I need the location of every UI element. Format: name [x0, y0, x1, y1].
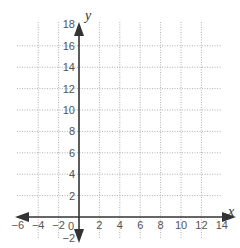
x-tick-label: 12 — [195, 219, 207, 231]
y-tick-label: 8 — [69, 125, 75, 137]
x-axis-label: x — [227, 204, 235, 219]
y-tick-label: 14 — [63, 61, 75, 73]
x-tick-label: 8 — [158, 219, 164, 231]
y-tick-label: 4 — [69, 168, 75, 180]
x-tick-label: 14 — [216, 219, 228, 231]
x-tick-label: 10 — [175, 219, 187, 231]
axes — [15, 22, 236, 243]
y-tick-label: −2 — [62, 232, 75, 244]
y-tick-label: 2 — [69, 190, 75, 202]
y-tick-label: 6 — [69, 147, 75, 159]
y-tick-label: 10 — [63, 104, 75, 116]
grid-lines — [17, 22, 221, 238]
y-tick-label: 18 — [63, 18, 75, 30]
x-tick-label: −6 — [12, 219, 25, 231]
x-tick-label: 2 — [96, 219, 102, 231]
coordinate-plane: −6−4−22468101214−224681012141618 x y 0 — [0, 0, 240, 248]
y-tick-label: 16 — [63, 40, 75, 52]
x-tick-label: −4 — [32, 219, 45, 231]
y-axis-label: y — [83, 8, 92, 23]
y-axis-up-arrow-icon — [74, 22, 84, 36]
y-axis-down-arrow-icon — [74, 229, 84, 243]
x-tick-label: −2 — [52, 219, 65, 231]
x-tick-label: 4 — [117, 219, 123, 231]
origin-label: 0 — [68, 220, 74, 232]
x-tick-label: 6 — [137, 219, 143, 231]
y-tick-label: 12 — [63, 83, 75, 95]
